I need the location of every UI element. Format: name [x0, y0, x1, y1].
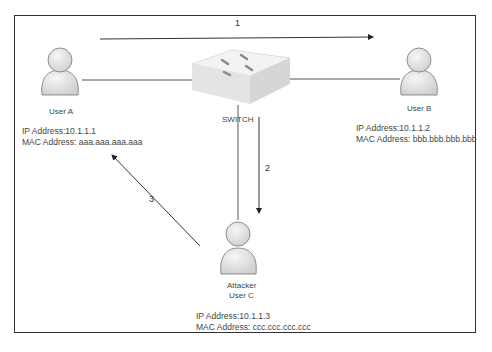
user-a-info: IP Address:10.1.1.1 MAC Address: aaa.aaa…: [22, 126, 143, 148]
user-b-mac: MAC Address: bbb.bbb.bbb.bbb: [356, 134, 477, 145]
user-a-mac: MAC Address: aaa.aaa.aaa.aaa: [22, 137, 143, 148]
user-c-mac: MAC Address: ccc.ccc.ccc.ccc: [196, 322, 311, 333]
user-c-ip: IP Address:10.1.1.3: [196, 311, 311, 322]
user-b-info: IP Address:10.1.1.2 MAC Address: bbb.bbb…: [356, 123, 477, 145]
user-a-ip: IP Address:10.1.1.1: [22, 126, 143, 137]
arrow-step-1: [100, 37, 373, 39]
user-c-role: Attacker: [227, 281, 256, 290]
step-1-label: 1: [235, 18, 240, 28]
user-b-ip: IP Address:10.1.1.2: [356, 123, 477, 134]
step-3-label: 3: [149, 194, 154, 204]
user-b-person-icon: [401, 48, 438, 95]
user-c-attacker-icon: [221, 222, 257, 274]
switch-label: SWITCH: [222, 115, 254, 124]
user-a-person-icon: [42, 48, 79, 95]
step-2-label: 2: [265, 163, 270, 173]
user-c-name: User C: [229, 291, 254, 300]
user-a-name: User A: [49, 107, 73, 116]
switch-icon: [192, 50, 290, 104]
user-b-name: User B: [407, 104, 431, 113]
arrow-step-3: [112, 155, 200, 246]
user-c-info: IP Address:10.1.1.3 MAC Address: ccc.ccc…: [196, 311, 311, 333]
